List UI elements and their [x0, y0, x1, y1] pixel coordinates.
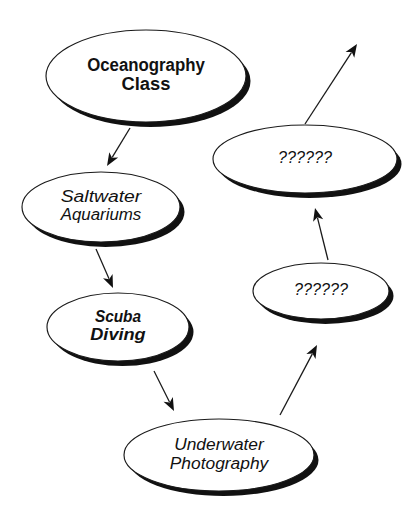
- node-underwater-photography[interactable]: UnderwaterPhotography: [124, 419, 319, 496]
- node-label: Saltwater: [61, 188, 142, 205]
- edge-arrow: [280, 345, 317, 415]
- node-unknown-upper[interactable]: ??????: [213, 125, 402, 198]
- edge-arrow: [313, 208, 328, 260]
- node-unknown-lower[interactable]: ??????: [253, 263, 394, 324]
- concept-map-svg: OceanographyClassSaltwaterAquariumsScuba…: [0, 0, 420, 517]
- node-label: Underwater: [174, 436, 264, 453]
- edge-arrow: [305, 44, 357, 124]
- node-saltwater-aquariums[interactable]: SaltwaterAquariums: [22, 172, 185, 247]
- node-label: ??????: [278, 149, 332, 166]
- edge-arrow: [107, 128, 130, 166]
- diagram-canvas: OceanographyClassSaltwaterAquariumsScuba…: [0, 0, 420, 517]
- node-oceanography-class[interactable]: OceanographyClass: [46, 30, 251, 127]
- node-label: Scuba: [95, 307, 141, 325]
- node-label: Aquariums: [60, 206, 142, 223]
- edge-arrow: [154, 371, 174, 411]
- nodes-layer: OceanographyClassSaltwaterAquariumsScuba…: [22, 30, 402, 496]
- node-label: Oceanography: [87, 55, 205, 75]
- node-label: Diving: [90, 325, 145, 343]
- edge-arrow: [96, 249, 113, 288]
- node-label: Photography: [170, 455, 270, 472]
- node-label: ??????: [294, 281, 348, 298]
- node-label: Class: [122, 74, 171, 94]
- node-scuba-diving[interactable]: ScubaDiving: [47, 293, 194, 366]
